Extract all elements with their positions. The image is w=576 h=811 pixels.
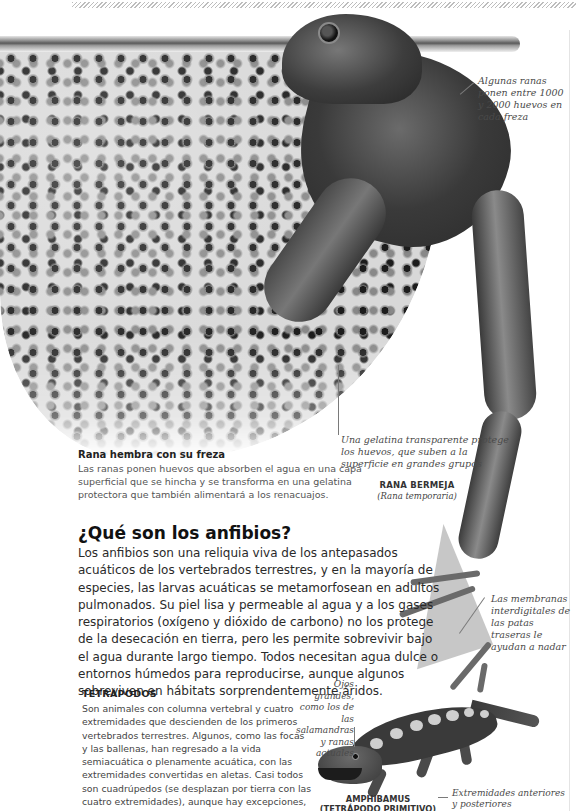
amphibamus-spot xyxy=(446,710,459,721)
leader-line xyxy=(354,727,355,747)
annotation-eggs-count: Algunas ranas ponen entre 1000 y 2000 hu… xyxy=(478,75,570,123)
amphibamus-spot xyxy=(410,720,423,731)
section-heading: ¿Qué son los anfibios? xyxy=(78,523,291,543)
caption-title: Rana hembra con su freza xyxy=(78,449,225,460)
annotation-webbing: Las membranas interdigitales de las pata… xyxy=(491,593,571,653)
section-body: Los anfibios son una reliquia viva de lo… xyxy=(78,545,440,701)
water-surface xyxy=(0,36,520,52)
frog-toe xyxy=(477,662,488,693)
annotation-limbs: Extremidades anteriores y posteriores xyxy=(452,788,572,810)
species-name: RANA BERMEJA xyxy=(372,480,462,490)
leader-line xyxy=(438,797,448,798)
amphibamus-spot xyxy=(480,710,489,718)
page-edge-rule xyxy=(569,30,570,811)
amphibamus-spot xyxy=(370,738,383,749)
page-header-hatch xyxy=(72,2,576,8)
amphibamus-mouth xyxy=(318,768,362,780)
amphibamus-name: AMPHIBAMUS (TETRÁPODO PRIMITIVO) xyxy=(318,794,438,811)
annotation-eyes: Ojos grandes, como los de las salamandra… xyxy=(294,679,354,760)
caption-text: Las ranas ponen huevos que absorben el a… xyxy=(78,462,378,501)
amphibamus-spot xyxy=(464,708,474,717)
frog-head xyxy=(282,14,422,104)
amphibamus-spot xyxy=(390,728,403,739)
tetrapods-text: Son animales con columna vertebral y cua… xyxy=(82,702,312,811)
frog-eye xyxy=(318,22,340,44)
amphibamus-name-line2: (TETRÁPODO PRIMITIVO) xyxy=(318,804,438,811)
frog-hindleg-lower xyxy=(455,407,525,562)
tetrapods-title: TETRÁPODOS xyxy=(82,688,157,699)
amphibamus-spot xyxy=(428,714,441,725)
frog-hindleg-upper xyxy=(470,188,538,421)
leader-line xyxy=(338,365,339,435)
amphibamus-name-line1: AMPHIBAMUS xyxy=(318,794,438,804)
species-latin-name: (Rana temporaria) xyxy=(362,491,472,501)
